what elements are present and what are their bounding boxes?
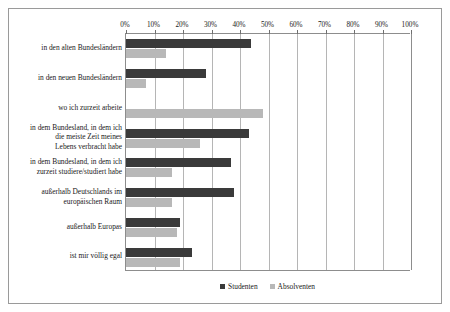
category-label-line: in den neuen Bundesländern [10,73,122,82]
bar-absolventen [126,168,172,177]
x-tick-label: 60% [289,20,302,30]
category-label-line: wo ich zurzeit arbeite [10,103,122,112]
bar-absolventen [126,198,172,207]
bar-studenten [126,69,206,78]
bar-group [126,34,410,64]
bar-slot [126,49,410,58]
bar-studenten [126,129,249,138]
legend-entry[interactable]: Studenten [220,282,258,291]
category-label-line: ist mir völlig egal [10,251,122,260]
category-label-line: außerhalb Deutschlands im [10,187,122,196]
category-label-line: die meiste Zeit meines [10,132,122,141]
bar-studenten [126,218,180,227]
bar-slot [126,79,410,88]
bar-group [126,153,410,183]
bar-slot [126,139,410,148]
y-axis-category-labels: in den alten Bundesländernin den neuen B… [10,33,122,271]
gridline [411,34,412,270]
bar-rows [126,34,410,270]
x-tick-label: 80% [346,20,359,30]
bar-slot [126,69,410,78]
bar-absolventen [126,139,200,148]
x-tick-label: 10% [147,20,160,30]
category-label: wo ich zurzeit arbeite [10,103,122,112]
bar-absolventen [126,49,166,58]
x-tick-label: 70% [318,20,331,30]
bar-slot [126,39,410,48]
bar-group [126,213,410,243]
bar-absolventen [126,79,146,88]
category-label-line: in dem Bundesland, in dem ich [10,157,122,166]
bar-absolventen [126,258,180,267]
category-label: in dem Bundesland, in dem ichzurzeit stu… [10,157,122,176]
legend-entry[interactable]: Absolventen [270,282,315,291]
x-axis-tick-labels: 0%10%20%30%40%50%60%70%80%90%100% [125,20,410,32]
x-tick-label: 90% [375,20,388,30]
bar-slot [126,158,410,167]
legend-label: Studenten [228,282,258,291]
category-label: außerhalb Europas [10,222,122,231]
x-tick-label: 50% [261,20,274,30]
category-label: in den neuen Bundesländern [10,73,122,82]
bar-group [126,64,410,94]
category-label-line: in dem Bundesland, in dem ich [10,123,122,132]
x-tick-label: 30% [204,20,217,30]
chart-legend: StudentenAbsolventen [125,282,410,291]
bar-studenten [126,248,192,257]
bar-group [126,123,410,153]
bar-slot [126,248,410,257]
category-label: ist mir völlig egal [10,251,122,260]
legend-label: Absolventen [278,282,315,291]
bar-slot [126,218,410,227]
category-label-line: zurzeit studiere/studiert habe [10,167,122,176]
bar-studenten [126,188,234,197]
category-label-line: europäischen Raum [10,197,122,206]
category-label-line: außerhalb Europas [10,222,122,231]
bar-slot [126,258,410,267]
legend-swatch-icon [220,284,225,289]
bar-studenten [126,39,251,48]
category-label-line: Lebens verbracht habe [10,142,122,151]
bar-slot [126,188,410,197]
legend-swatch-icon [270,284,275,289]
chart-figure: 0%10%20%30%40%50%60%70%80%90%100% in den… [0,0,450,312]
bar-slot [126,228,410,237]
bar-group [126,183,410,213]
category-label: in dem Bundesland, in dem ichdie meiste … [10,123,122,151]
bar-group [126,242,410,272]
bar-slot [126,99,410,108]
bar-absolventen [126,109,263,118]
bar-slot [126,198,410,207]
bar-slot [126,109,410,118]
category-label: außerhalb Deutschlands imeuropäischen Ra… [10,187,122,206]
x-tick-label: 0% [120,20,130,30]
plot-area [125,33,410,271]
x-tick-label: 40% [232,20,245,30]
bar-absolventen [126,228,177,237]
bar-slot [126,168,410,177]
x-tick-label: 100% [402,20,419,30]
bar-group [126,94,410,124]
bar-slot [126,129,410,138]
x-tick-mark [411,30,412,34]
category-label: in den alten Bundesländern [10,43,122,52]
category-label-line: in den alten Bundesländern [10,43,122,52]
bar-studenten [126,158,231,167]
x-tick-label: 20% [175,20,188,30]
